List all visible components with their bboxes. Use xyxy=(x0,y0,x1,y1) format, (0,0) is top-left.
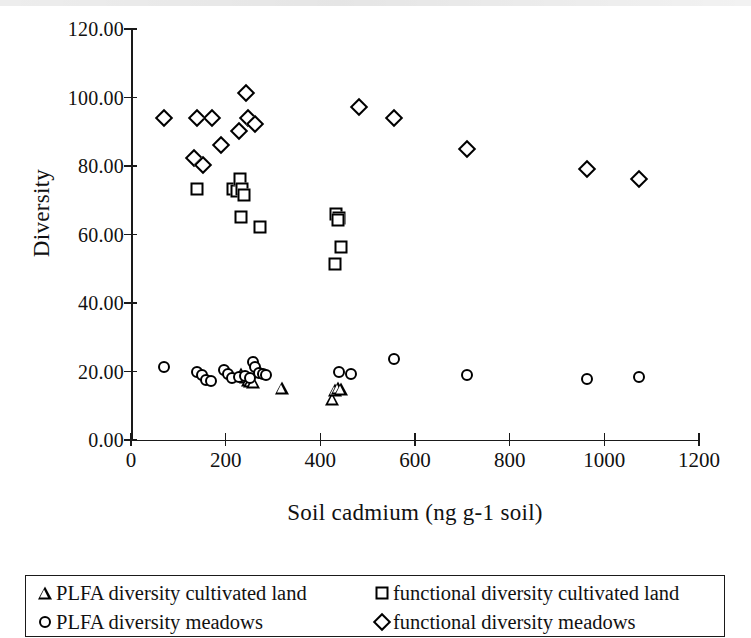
x-tick-label: 1200 xyxy=(659,448,739,472)
y-tick-label-text: 20.00 xyxy=(28,362,124,382)
y-tick xyxy=(124,302,137,303)
y-axis-title: Diversity xyxy=(29,93,55,333)
legend-item-plfa-meadows[interactable]: PLFA diversity meadows xyxy=(34,607,263,637)
data-point-diamond xyxy=(350,98,368,116)
x-tick xyxy=(320,433,321,446)
legend-label: PLFA diversity meadows xyxy=(56,611,263,633)
data-point-square xyxy=(335,241,348,254)
circle-icon xyxy=(34,611,56,633)
data-point-circle xyxy=(260,369,272,381)
chart-legend: PLFA diversity cultivated land PLFA dive… xyxy=(25,575,725,637)
x-axis-title: Soil cadmium (ng g-1 soil) xyxy=(131,500,699,526)
data-point-square xyxy=(331,214,344,227)
y-tick-label: 0.00 xyxy=(14,430,124,450)
data-point-circle xyxy=(461,369,473,381)
x-tick xyxy=(225,433,226,446)
data-point-circle xyxy=(345,368,357,380)
y-tick xyxy=(124,97,137,98)
x-tick-label: 400 xyxy=(280,448,360,472)
data-point-square xyxy=(237,188,250,201)
data-point-square xyxy=(191,183,204,196)
x-tick-label: 600 xyxy=(375,448,455,472)
diamond-icon xyxy=(371,611,393,633)
legend-label: functional diversity meadows xyxy=(393,611,636,633)
x-tick xyxy=(698,433,699,446)
legend-item-plfa-cultivated[interactable]: PLFA diversity cultivated land xyxy=(34,578,307,608)
legend-label: PLFA diversity cultivated land xyxy=(56,582,307,604)
data-point-circle xyxy=(388,353,400,365)
legend-label: functional diversity cultivated land xyxy=(393,582,679,604)
data-point-circle xyxy=(633,371,645,383)
data-point-diamond xyxy=(155,109,173,127)
x-tick xyxy=(604,433,605,446)
data-point-diamond xyxy=(203,109,221,127)
y-tick-label-text: 120.00 xyxy=(28,19,124,39)
y-tick xyxy=(124,371,137,372)
y-tick xyxy=(124,28,137,29)
data-point-triangle xyxy=(334,383,348,396)
y-tick-label-text: 0.00 xyxy=(28,430,124,450)
y-tick xyxy=(124,234,137,235)
data-point-circle xyxy=(205,375,217,387)
data-point-square xyxy=(234,210,247,223)
data-point-circle xyxy=(158,361,170,373)
x-tick-label: 0 xyxy=(91,448,171,472)
x-tick xyxy=(130,433,131,446)
square-icon xyxy=(371,582,393,604)
y-tick-label: 120.00 xyxy=(14,19,124,39)
x-tick-label: 800 xyxy=(470,448,550,472)
data-point-diamond xyxy=(630,170,648,188)
y-tick xyxy=(124,165,137,166)
data-point-diamond xyxy=(237,84,255,102)
data-point-diamond xyxy=(385,109,403,127)
x-tick-label: 200 xyxy=(186,448,266,472)
data-point-diamond xyxy=(578,160,596,178)
data-point-diamond xyxy=(458,140,476,158)
scatter-chart: 0.0020.0040.0060.0080.00100.00120.00 020… xyxy=(0,0,751,545)
data-point-triangle xyxy=(275,381,289,394)
data-point-circle xyxy=(581,373,593,385)
y-tick-label: 20.00 xyxy=(14,362,124,382)
legend-item-functional-cultivated[interactable]: functional diversity cultivated land xyxy=(371,578,679,608)
legend-item-functional-meadows[interactable]: functional diversity meadows xyxy=(371,607,636,637)
data-point-diamond xyxy=(212,136,230,154)
data-point-square xyxy=(253,220,266,233)
triangle-icon xyxy=(34,582,56,604)
x-tick xyxy=(414,433,415,446)
data-point-square xyxy=(328,257,341,270)
data-point-circle xyxy=(333,366,345,378)
x-tick xyxy=(509,433,510,446)
x-tick-label: 1000 xyxy=(564,448,644,472)
